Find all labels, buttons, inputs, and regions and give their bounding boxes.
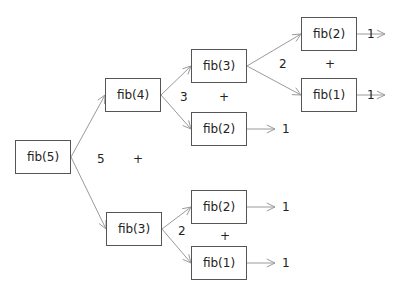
arrow-edge — [247, 125, 275, 133]
plus-sign: + — [220, 230, 230, 242]
fibonacci-recursion-tree: fib(5)fib(4)fib(3)fib(2)fib(2)fib(1)fib(… — [0, 0, 414, 296]
arrow-edge — [247, 34, 301, 66]
sum-label: 2 — [178, 225, 186, 237]
arrow-edge — [162, 207, 191, 229]
arrow-edge — [162, 229, 191, 263]
node-n2a: fib(2) — [191, 112, 247, 146]
node-n3b: fib(3) — [106, 212, 162, 246]
plus-sign: + — [219, 91, 229, 103]
arrow-edge — [71, 157, 106, 229]
arrow-edge — [71, 95, 105, 157]
node-n5: fib(5) — [15, 140, 71, 174]
plus-sign: + — [325, 58, 335, 70]
result-label: 1 — [282, 201, 290, 213]
node-n3a: fib(3) — [191, 49, 247, 83]
node-n2b: fib(2) — [301, 17, 357, 51]
result-label: 1 — [282, 123, 290, 135]
sum-label: 3 — [180, 91, 188, 103]
arrowhead-icon — [292, 34, 301, 41]
node-n1b: fib(1) — [191, 246, 247, 280]
arrow-edge — [247, 259, 275, 267]
result-label: 1 — [367, 89, 375, 101]
node-n2c: fib(2) — [191, 190, 247, 224]
sum-label: 2 — [279, 58, 287, 70]
sum-label: 5 — [97, 153, 105, 165]
arrow-edge — [247, 203, 275, 211]
plus-sign: + — [133, 153, 143, 165]
result-label: 1 — [367, 28, 375, 40]
arrow-edge — [247, 66, 301, 95]
node-n4: fib(4) — [105, 78, 161, 112]
node-n1a: fib(1) — [301, 78, 357, 112]
result-label: 1 — [282, 257, 290, 269]
